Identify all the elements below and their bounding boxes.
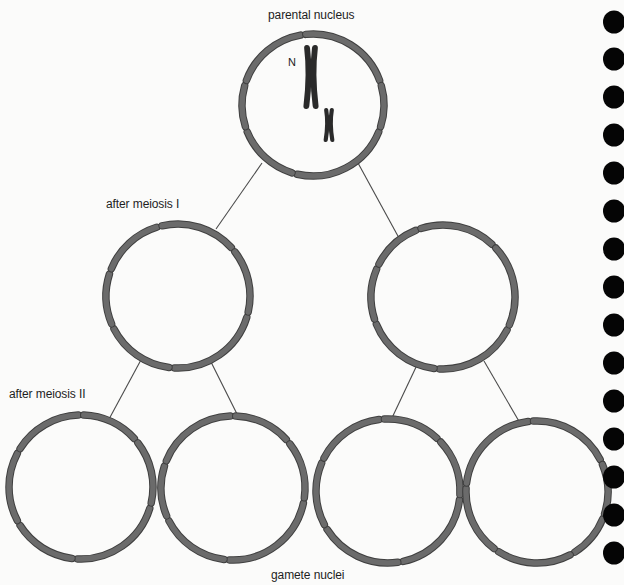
membrane-segment xyxy=(20,415,78,449)
binding-hole xyxy=(603,503,624,526)
binding-hole xyxy=(603,161,624,184)
binding-hole xyxy=(603,351,624,374)
connector-line xyxy=(391,365,417,420)
connector-line xyxy=(484,361,520,423)
diagram-canvas xyxy=(0,0,624,585)
nucleus-m1-left xyxy=(106,224,250,368)
nucleus-gamete-1 xyxy=(9,415,153,559)
binding-hole xyxy=(603,10,624,33)
membrane-segment-outline xyxy=(324,420,379,459)
membrane-segment-outline xyxy=(20,525,72,558)
chromatid xyxy=(331,110,333,140)
membrane-segment-outline xyxy=(111,227,156,269)
meiosis-diagram: parental nucleus after meiosis I after m… xyxy=(0,0,624,585)
membrane-segment-outline xyxy=(114,329,169,368)
nuclei-group xyxy=(9,34,608,563)
membrane-segment-outline xyxy=(247,132,292,173)
chromosome-small-icon xyxy=(326,110,333,140)
membrane-segment xyxy=(327,529,398,563)
membrane-segment xyxy=(77,508,149,559)
binding-hole xyxy=(603,427,624,450)
membrane-segment xyxy=(174,317,246,368)
chromatid xyxy=(326,110,328,140)
binding-hole xyxy=(603,123,624,146)
membrane-segment xyxy=(297,132,378,176)
connector-line xyxy=(211,362,238,416)
chromatid xyxy=(306,48,308,106)
nucleus-gamete-3 xyxy=(316,419,460,563)
chromosome-large-icon xyxy=(306,48,315,106)
chromatid xyxy=(313,48,315,106)
membrane-segment xyxy=(421,225,492,244)
binding-hole xyxy=(603,389,624,412)
membrane-segment xyxy=(229,503,303,560)
connector-line xyxy=(358,163,399,238)
binding-hole xyxy=(603,237,624,260)
chromosome-n-marker: N xyxy=(288,56,296,68)
membrane-segment-outline xyxy=(169,521,224,560)
after-meiosis-1-label: after meiosis I xyxy=(106,197,179,211)
nucleus-m1-right xyxy=(371,225,515,369)
binding-hole xyxy=(603,313,624,336)
connector-line xyxy=(108,358,142,421)
binding-hole xyxy=(603,275,624,298)
binding-hole xyxy=(603,85,624,108)
binding-hole xyxy=(603,199,624,222)
binding-hole xyxy=(603,47,624,70)
chromosomes-group xyxy=(306,48,332,140)
membrane-segment xyxy=(496,248,515,325)
nucleus-gamete-2 xyxy=(161,416,305,560)
binding-holes xyxy=(603,10,624,564)
binding-hole xyxy=(603,465,624,488)
membrane-segment xyxy=(467,422,529,484)
connector-line xyxy=(216,163,262,229)
after-meiosis-2-label: after meiosis II xyxy=(9,387,85,401)
binding-hole xyxy=(603,541,624,564)
parental-nucleus-label: parental nucleus xyxy=(268,8,354,22)
membrane-segment-outline xyxy=(376,324,434,368)
gamete-nuclei-label: gamete nuclei xyxy=(271,568,344,582)
nucleus-gamete-4 xyxy=(466,421,608,563)
